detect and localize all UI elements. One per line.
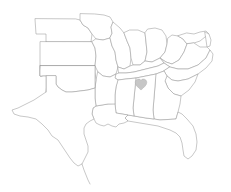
state-kansas <box>40 42 96 66</box>
texas-coast-detail <box>82 164 90 184</box>
state-arkansas <box>95 72 118 106</box>
state-mississippi <box>115 78 136 116</box>
state-delaware <box>205 32 211 47</box>
outline-map-container <box>0 0 231 192</box>
us-outline-map-svg <box>0 0 231 192</box>
